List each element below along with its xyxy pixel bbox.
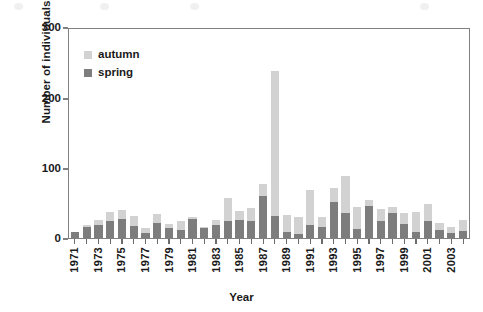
x-tick-mark-2003 <box>451 239 452 244</box>
bar-1996 <box>365 200 373 238</box>
x-tick-label-1995: 1995 <box>352 247 363 273</box>
bar-segment-spring-1974 <box>106 221 114 238</box>
bar-segment-spring-1972 <box>83 227 91 238</box>
bar-segment-spring-1977 <box>141 233 149 238</box>
x-tick-label-1989: 1989 <box>281 247 292 273</box>
legend-item-spring: spring <box>84 65 140 80</box>
bar-segment-autumn-1975 <box>118 210 126 219</box>
x-tick-mark-1975 <box>121 239 122 244</box>
bar-1972 <box>83 225 91 238</box>
bar-1992 <box>318 217 326 238</box>
bar-1981 <box>188 217 196 238</box>
bar-segment-autumn-2004 <box>459 220 467 231</box>
bar-segment-spring-1998 <box>388 213 396 238</box>
bar-segment-spring-1992 <box>318 227 326 238</box>
x-tick-label-1981: 1981 <box>187 247 198 273</box>
x-tick-mark-1984 <box>227 239 228 244</box>
bar-1994 <box>341 176 349 238</box>
bar-2001 <box>424 204 432 238</box>
x-tick-mark-2004 <box>463 239 464 244</box>
bar-1987 <box>259 184 267 238</box>
x-tick-mark-1972 <box>86 239 87 244</box>
bar-1977 <box>141 228 149 238</box>
x-tick-mark-1998 <box>392 239 393 244</box>
x-tick-mark-1980 <box>180 239 181 244</box>
bar-segment-spring-1984 <box>224 221 232 238</box>
bar-segment-autumn-1985 <box>235 211 243 220</box>
x-tick-mark-1988 <box>274 239 275 244</box>
bar-1982 <box>200 227 208 238</box>
bar-segment-spring-2000 <box>412 232 420 238</box>
bar-segment-spring-1997 <box>377 221 385 238</box>
bar-1997 <box>377 209 385 238</box>
bar-segment-autumn-1993 <box>330 188 338 203</box>
x-tick-mark-1997 <box>380 239 381 244</box>
bar-segment-spring-1995 <box>353 229 361 238</box>
legend-swatch-spring-icon <box>84 69 92 77</box>
x-tick-mark-1987 <box>263 239 264 244</box>
bar-segment-spring-1990 <box>294 234 302 238</box>
legend-swatch-autumn-icon <box>84 51 92 59</box>
bar-segment-spring-1973 <box>94 225 102 238</box>
bar-segment-spring-2003 <box>447 233 455 238</box>
chart-figure: Number of individuals 300 200 100 0 1971… <box>0 0 483 312</box>
bar-segment-spring-1994 <box>341 213 349 238</box>
x-tick-mark-1991 <box>310 239 311 244</box>
bar-segment-spring-1988 <box>271 216 279 238</box>
bar-segment-spring-1999 <box>400 224 408 238</box>
x-tick-label-2003: 2003 <box>446 247 457 273</box>
x-tick-mark-1976 <box>133 239 134 244</box>
bar-1985 <box>235 211 243 238</box>
legend: autumn spring <box>84 47 140 83</box>
x-tick-label-1997: 1997 <box>375 247 386 273</box>
x-tick-label-1993: 1993 <box>328 247 339 273</box>
bar-segment-spring-1982 <box>200 228 208 238</box>
legend-label-autumn: autumn <box>98 49 140 61</box>
bar-segment-autumn-1997 <box>377 209 385 222</box>
bar-segment-autumn-1991 <box>306 190 314 226</box>
bar-1978 <box>153 214 161 238</box>
x-tick-mark-1971 <box>74 239 75 244</box>
y-tick-label-300: 300 <box>31 22 61 34</box>
bar-1976 <box>130 216 138 238</box>
bar-segment-autumn-1984 <box>224 198 232 221</box>
x-tick-mark-1994 <box>345 239 346 244</box>
bar-segment-autumn-2001 <box>424 204 432 221</box>
x-tick-mark-1981 <box>192 239 193 244</box>
bar-segment-spring-1985 <box>235 220 243 238</box>
bar-1984 <box>224 198 232 238</box>
bar-segment-spring-2002 <box>435 230 443 238</box>
bar-segment-spring-1996 <box>365 206 373 238</box>
bar-1974 <box>106 212 114 238</box>
x-tick-mark-2002 <box>439 239 440 244</box>
bar-1980 <box>177 221 185 238</box>
bar-segment-spring-1976 <box>130 226 138 238</box>
x-tick-mark-1999 <box>404 239 405 244</box>
x-tick-mark-1985 <box>239 239 240 244</box>
x-axis-title: Year <box>0 291 483 303</box>
bar-segment-autumn-1976 <box>130 216 138 226</box>
x-tick-mark-1995 <box>357 239 358 244</box>
bar-segment-autumn-1989 <box>283 215 291 232</box>
bar-segment-spring-1975 <box>118 219 126 238</box>
bar-segment-autumn-1992 <box>318 217 326 227</box>
bar-segment-spring-1986 <box>247 221 255 238</box>
y-tick-label-0: 0 <box>31 233 61 245</box>
bar-1999 <box>400 213 408 238</box>
bar-2000 <box>412 212 420 238</box>
bar-segment-autumn-2002 <box>435 223 443 230</box>
bar-segment-autumn-1995 <box>353 207 361 229</box>
x-tick-mark-1990 <box>298 239 299 244</box>
x-tick-label-1987: 1987 <box>258 247 269 273</box>
x-tick-mark-1977 <box>145 239 146 244</box>
bar-segment-spring-2001 <box>424 221 432 238</box>
x-tick-label-1983: 1983 <box>211 247 222 273</box>
x-tick-mark-1993 <box>333 239 334 244</box>
x-tick-mark-1979 <box>168 239 169 244</box>
bar-1973 <box>94 220 102 238</box>
scan-artifact-strip <box>0 0 483 14</box>
bar-1989 <box>283 215 291 238</box>
x-tick-label-1977: 1977 <box>140 247 151 273</box>
bar-segment-autumn-1988 <box>271 71 279 216</box>
legend-item-autumn: autumn <box>84 47 140 62</box>
